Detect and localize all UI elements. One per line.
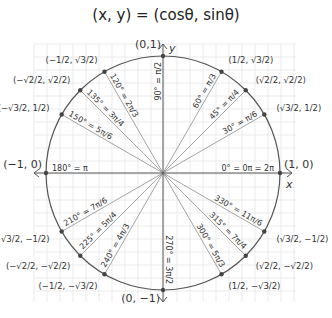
coord-label-150: (−√3/2, 1/2) <box>0 103 50 113</box>
coord-label-0: (1, 0) <box>284 158 314 171</box>
coord-label-180: (−1, 0) <box>3 158 42 171</box>
coord-label-120: (−1/2, √3/2) <box>46 55 98 65</box>
point-180 <box>44 171 48 175</box>
angle-label-90: 90° = π/2 <box>154 62 163 101</box>
coord-label-300: (1/2, −√3/2) <box>229 281 281 291</box>
point-135 <box>78 88 82 92</box>
point-210 <box>59 229 63 233</box>
angle-label-45: 45° = π/4 <box>207 88 241 122</box>
coord-label-225: (−√2/2, −√2/2) <box>6 261 70 271</box>
unit-circle-diagram: xy 0° = 0π = 2π30° = π/645° = π/460° = π… <box>0 0 332 318</box>
point-315 <box>244 254 248 258</box>
coord-label-90: (0,1) <box>135 38 161 51</box>
coord-label-135: (−√2/2, √2/2) <box>13 75 70 85</box>
point-0 <box>278 171 282 175</box>
angle-label-0: 0° = 0π = 2π <box>222 164 275 173</box>
angle-label-60: 60° = π/3 <box>191 72 218 110</box>
point-330 <box>262 229 266 233</box>
point-45 <box>244 88 248 92</box>
coord-label-315: (√2/2, −√2/2) <box>256 261 313 271</box>
coord-label-240: (−1/2, −√3/2) <box>38 281 97 291</box>
coord-label-45: (√2/2, √2/2) <box>256 75 306 85</box>
point-120 <box>102 69 106 73</box>
x-axis-label: x <box>285 178 293 191</box>
coord-label-30: (√3/2, 1/2) <box>276 103 321 113</box>
y-axis-label: y <box>168 42 176 55</box>
coord-label-270: (0, −1) <box>121 292 160 305</box>
point-90 <box>161 54 165 58</box>
coord-label-210: (−√3/2, −1/2) <box>0 234 50 244</box>
point-240 <box>102 272 106 276</box>
angle-label-30: 30° = π/6 <box>221 109 259 136</box>
point-225 <box>78 254 82 258</box>
coord-label-60: (1/2, √3/2) <box>229 55 274 65</box>
point-60 <box>219 69 223 73</box>
angle-label-180: 180° = π <box>52 164 88 173</box>
point-30 <box>262 112 266 116</box>
point-270 <box>161 288 165 292</box>
angle-label-270: 270° = 3π/2 <box>164 235 173 284</box>
point-150 <box>59 112 63 116</box>
coord-label-330: (√3/2, −1/2) <box>276 234 328 244</box>
point-300 <box>219 272 223 276</box>
